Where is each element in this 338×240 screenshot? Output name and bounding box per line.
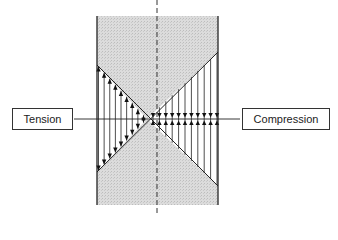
compression-label: Compression	[242, 108, 330, 130]
tension-label: Tension	[12, 108, 73, 130]
